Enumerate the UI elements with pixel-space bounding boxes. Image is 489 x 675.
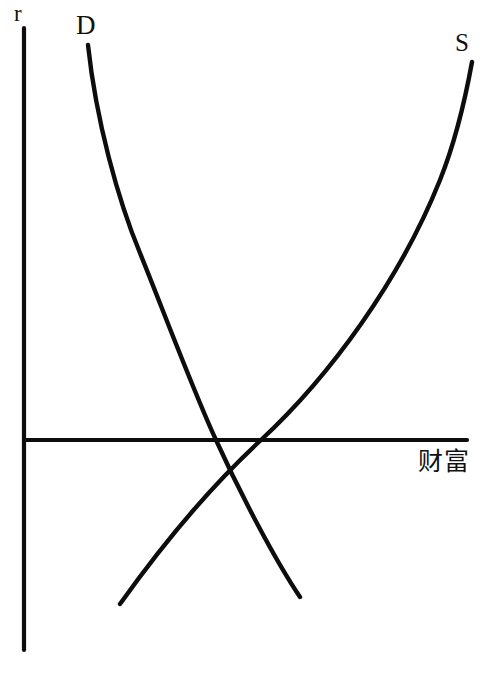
supply-curve-label: S <box>455 30 469 55</box>
x-axis-label: 财富 <box>418 449 470 474</box>
demand-curve <box>88 45 300 597</box>
y-axis-label: r <box>14 2 22 25</box>
figure-canvas <box>0 0 489 675</box>
demand-curve-label: D <box>76 12 96 39</box>
supply-demand-figure: r D S 财富 <box>0 0 489 675</box>
